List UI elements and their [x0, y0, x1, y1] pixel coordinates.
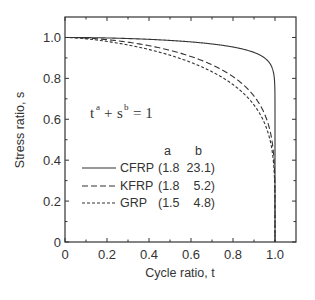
legend-a-kfrp: (1.8: [158, 179, 180, 193]
eq-exp-b: b: [124, 102, 129, 112]
x-tick-label: 0.8: [224, 247, 242, 262]
chart: 00.20.40.60.81.000.20.40.60.81.0 Cycle r…: [0, 0, 315, 300]
eq-plus: +: [104, 105, 112, 121]
curves: [65, 37, 275, 242]
y-tick-label: 0.4: [43, 153, 61, 168]
y-tick-label: 0.8: [43, 71, 61, 86]
curve-grp: [65, 37, 275, 242]
legend-label-kfrp: KFRP: [120, 179, 153, 193]
eq-base-t: t: [90, 105, 95, 121]
eq-exp-a: a: [96, 102, 100, 112]
legend-header-b: b: [195, 144, 202, 158]
legend-a-cfrp: (1.8: [158, 161, 180, 175]
x-axis-title: Cycle ratio, t: [145, 266, 215, 280]
legend-label-grp: GRP: [120, 196, 147, 210]
legend-b-grp: 4.8): [193, 196, 215, 210]
y-tick-label: 1.0: [43, 30, 61, 45]
eq-base-s: s: [117, 105, 123, 121]
x-tick-label: 0.4: [140, 247, 158, 262]
curve-kfrp: [65, 37, 275, 242]
equation-annotation: t a + s b = 1: [90, 102, 153, 121]
x-tick-label: 0.6: [182, 247, 200, 262]
ticks: [65, 17, 296, 242]
y-tick-label: 0: [54, 235, 61, 250]
y-tick-label: 0.6: [43, 112, 61, 127]
legend-a-grp: (1.5: [158, 196, 180, 210]
curve-cfrp: [65, 37, 275, 242]
y-tick-label: 0.2: [43, 194, 61, 209]
x-tick-label: 0: [61, 247, 68, 262]
legend-b-cfrp: 23.1): [187, 161, 216, 175]
legend: a b CFRP (1.8 23.1) KFRP (1.8 5.2) GRP (…: [82, 144, 215, 210]
legend-header-a: a: [164, 144, 171, 158]
y-axis-title: Stress ratio, s: [13, 92, 27, 168]
legend-label-cfrp: CFRP: [120, 161, 154, 175]
legend-b-kfrp: 5.2): [193, 179, 215, 193]
x-tick-label: 1.0: [266, 247, 284, 262]
eq-rhs: = 1: [133, 105, 153, 121]
plot-frame: [65, 17, 296, 242]
x-tick-label: 0.2: [98, 247, 116, 262]
